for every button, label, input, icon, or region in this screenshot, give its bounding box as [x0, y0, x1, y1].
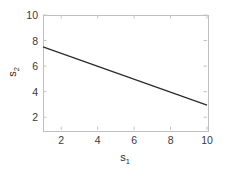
- y-axis-title-subscript: 2: [12, 67, 21, 71]
- x-axis-title: s1: [120, 152, 130, 163]
- series-line-0: [43, 47, 207, 105]
- x-tick-label: 10: [201, 135, 213, 146]
- y-tick-label: 6: [32, 61, 38, 72]
- y-tick-label: 2: [32, 112, 38, 123]
- y-tick-label: 4: [32, 86, 38, 97]
- y-tick-marks: [43, 15, 207, 117]
- y-tick-label: 8: [32, 35, 38, 46]
- y-axis-title: s2: [7, 67, 18, 77]
- x-tick-marks: [61, 15, 207, 130]
- chart-figure: 2 4 6 8 10 2 4 6 8 10 s1 s2: [0, 0, 228, 179]
- y-tick-label: 10: [26, 10, 38, 21]
- x-tick-label: 6: [131, 135, 137, 146]
- x-axis-title-subscript: 1: [126, 157, 130, 166]
- x-tick-label: 8: [168, 135, 174, 146]
- x-tick-label: 2: [58, 135, 64, 146]
- y-axis-title-base: s: [6, 71, 18, 77]
- data-series-group: [43, 47, 207, 105]
- x-tick-label: 4: [95, 135, 101, 146]
